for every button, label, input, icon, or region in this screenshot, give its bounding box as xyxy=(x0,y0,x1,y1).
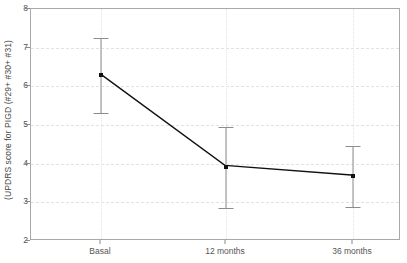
series-line xyxy=(31,9,399,239)
x-tick-label: 12 months xyxy=(205,247,245,256)
plot-area xyxy=(30,8,400,240)
x-tick-mark xyxy=(225,240,226,244)
y-axis-title-text: (UPDRS score for PIGD (#29+ #30+ #31) xyxy=(3,40,13,200)
chart-figure: (UPDRS score for PIGD (#29+ #30+ #31) 23… xyxy=(0,0,407,263)
x-tick-label: Basal xyxy=(89,247,110,256)
series-polyline xyxy=(101,74,352,175)
x-tick-label: 36 months xyxy=(332,247,372,256)
y-axis-tick-labels: 2345678 xyxy=(14,0,28,263)
data-point-marker xyxy=(351,174,355,178)
data-point-marker xyxy=(99,73,103,77)
x-tick-mark xyxy=(100,240,101,244)
x-tick-mark xyxy=(352,240,353,244)
data-point-marker xyxy=(224,165,228,169)
y-tick-mark xyxy=(25,240,30,241)
